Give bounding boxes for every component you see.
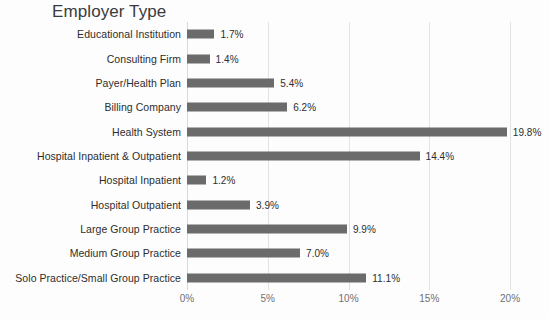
- category-label: Payer/Health Plan: [96, 77, 181, 89]
- bar-value-label: 14.4%: [426, 150, 455, 161]
- category-label: Billing Company: [104, 101, 181, 113]
- bar[interactable]: [187, 225, 347, 234]
- bar-value-label: 5.4%: [280, 77, 303, 88]
- bar[interactable]: [187, 273, 366, 282]
- category-label: Hospital Inpatient & Outpatient: [37, 150, 181, 162]
- category-label: Consulting Firm: [107, 53, 181, 65]
- bar-row: Educational Institution1.7%: [187, 22, 510, 46]
- category-label: Large Group Practice: [80, 223, 181, 235]
- category-label: Solo Practice/Small Group Practice: [15, 272, 181, 284]
- x-axis: 0%5%10%15%20%: [187, 293, 510, 313]
- category-label: Health System: [112, 126, 181, 138]
- x-axis-tick: 10%: [338, 293, 358, 304]
- x-axis-tick: 15%: [419, 293, 439, 304]
- bar-value-label: 11.1%: [372, 272, 400, 283]
- bar-row: Billing Company6.2%: [187, 95, 510, 119]
- bar-row: Consulting Firm1.4%: [187, 46, 510, 70]
- bar[interactable]: [187, 78, 274, 87]
- chart-title: Employer Type: [52, 2, 166, 22]
- bar[interactable]: [187, 103, 287, 112]
- bar[interactable]: [187, 176, 206, 185]
- bar-row: Medium Group Practice7.0%: [187, 241, 510, 265]
- bar[interactable]: [187, 127, 507, 136]
- bar-row: Hospital Outpatient3.9%: [187, 193, 510, 217]
- bar-value-label: 1.7%: [220, 29, 243, 40]
- category-label: Medium Group Practice: [70, 247, 181, 259]
- category-label: Educational Institution: [77, 28, 181, 40]
- bar-value-label: 7.0%: [306, 248, 329, 259]
- bar[interactable]: [187, 249, 300, 258]
- chart-container: Employer Type Educational Institution1.7…: [0, 0, 549, 319]
- bar[interactable]: [187, 54, 210, 63]
- category-label: Hospital Inpatient: [99, 174, 181, 186]
- bar-row: Hospital Inpatient1.2%: [187, 168, 510, 192]
- bar[interactable]: [187, 30, 214, 39]
- bar-row: Payer/Health Plan5.4%: [187, 71, 510, 95]
- bar-value-label: 1.2%: [212, 175, 235, 186]
- bar-row: Hospital Inpatient & Outpatient14.4%: [187, 144, 510, 168]
- bar-row: Solo Practice/Small Group Practice11.1%: [187, 266, 510, 290]
- x-axis-tick: 20%: [500, 293, 520, 304]
- bar-value-label: 6.2%: [293, 102, 316, 113]
- bar-value-label: 9.9%: [353, 224, 376, 235]
- bar-value-label: 1.4%: [216, 53, 239, 64]
- x-axis-tick: 5%: [260, 293, 275, 304]
- bar-value-label: 3.9%: [256, 199, 279, 210]
- bar[interactable]: [187, 151, 420, 160]
- bar[interactable]: [187, 200, 250, 209]
- bar-value-label: 19.8%: [513, 126, 542, 137]
- bar-row: Health System19.8%: [187, 119, 510, 143]
- plot-area: Educational Institution1.7%Consulting Fi…: [187, 22, 510, 290]
- x-axis-tick: 0%: [180, 293, 195, 304]
- gridline-20pct: [510, 22, 511, 290]
- category-label: Hospital Outpatient: [91, 199, 181, 211]
- bar-row: Large Group Practice9.9%: [187, 217, 510, 241]
